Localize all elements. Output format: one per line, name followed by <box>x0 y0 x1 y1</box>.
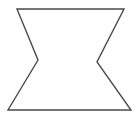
shape-svg: Line drawing of a six-sided concave poly… <box>0 0 138 128</box>
concave-hexagon-polygon <box>8 9 131 110</box>
shape-canvas: Line drawing of a six-sided concave poly… <box>0 0 138 128</box>
